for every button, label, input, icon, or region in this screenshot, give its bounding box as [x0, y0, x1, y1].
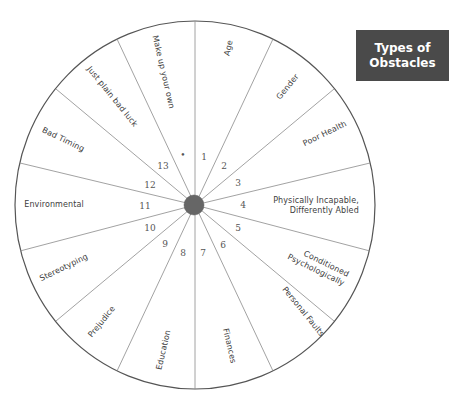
- sector-number: 5: [235, 223, 241, 233]
- sector-number: 7: [200, 248, 206, 258]
- sector-label-line2: Differently Abled: [273, 206, 359, 216]
- title-box: Types of Obstacles: [356, 30, 449, 81]
- sector-number: 1: [201, 152, 207, 162]
- sector-number: 11: [139, 201, 150, 211]
- sector-label-physically-incapable: Physically Incapable, Differently Abled: [273, 196, 359, 216]
- sector-number: 3: [235, 178, 241, 188]
- sector-number: 13: [157, 161, 168, 171]
- sector-number: 4: [240, 200, 246, 210]
- title-line2: Obstacles: [369, 56, 435, 71]
- sector-label-line1: Physically Incapable,: [273, 196, 359, 206]
- sector-number: 2: [221, 161, 227, 171]
- sector-number-bullet: •: [180, 150, 185, 160]
- sector-number: 8: [180, 248, 186, 258]
- sector-number: 9: [162, 239, 168, 249]
- wheel-hub: [184, 195, 204, 215]
- sector-label-environmental: Environmental: [24, 200, 84, 210]
- title-line1: Types of: [374, 41, 430, 56]
- sector-number: 10: [144, 223, 155, 233]
- sector-number: 12: [144, 180, 155, 190]
- sector-number: 6: [220, 240, 226, 250]
